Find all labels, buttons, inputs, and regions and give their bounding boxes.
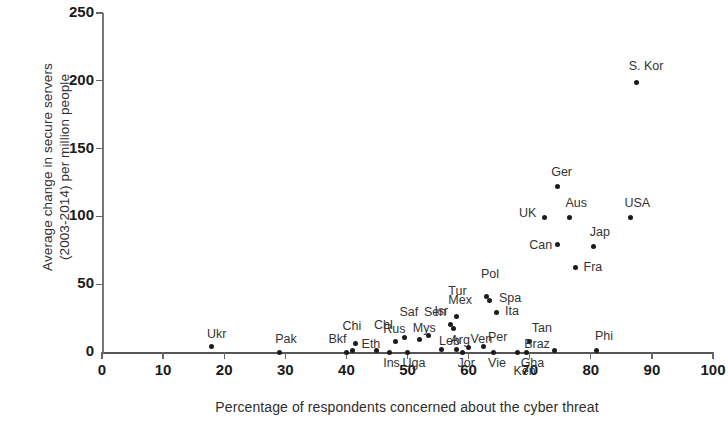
x-tick-label: 40: [324, 361, 368, 378]
data-point: [494, 310, 499, 315]
data-point-label: Vie: [488, 356, 506, 370]
data-point-label: Saf: [399, 305, 418, 319]
data-point: [628, 215, 633, 220]
data-point: [387, 350, 392, 355]
data-point: [451, 326, 456, 331]
x-tick-label: 0: [80, 361, 124, 378]
data-point-label: Pol: [481, 267, 499, 281]
data-point: [591, 244, 596, 249]
data-point-label: Braz: [524, 337, 550, 351]
data-point: [393, 339, 398, 344]
data-point: [426, 333, 431, 338]
data-point-label: Uga: [403, 356, 426, 370]
data-point-label: Jap: [590, 225, 610, 239]
data-point: [542, 215, 547, 220]
data-point-label: Ita: [505, 304, 519, 318]
data-point: [277, 350, 282, 355]
x-axis-label: Percentage of respondents concerned abou…: [102, 399, 712, 415]
data-point: [454, 347, 459, 352]
x-tick-label: 80: [569, 361, 613, 378]
y-axis-line: [102, 13, 104, 353]
data-point: [402, 335, 407, 340]
y-tick-label: 200: [48, 71, 94, 88]
data-point-label: Mys: [413, 321, 436, 335]
data-point: [460, 350, 465, 355]
y-tick-label: 100: [48, 206, 94, 223]
data-point-label: Phi: [595, 329, 613, 343]
x-tick-label: 30: [263, 361, 307, 378]
data-point-label: Tan: [532, 321, 552, 335]
y-tick-mark: [96, 148, 103, 149]
data-point-label: Can: [529, 238, 552, 252]
data-point: [466, 345, 471, 350]
data-point-label: Bkf: [328, 332, 346, 346]
data-point-label: Ger: [551, 165, 572, 179]
data-point: [552, 348, 557, 353]
y-tick-mark: [96, 284, 103, 285]
y-tick-mark: [96, 80, 103, 81]
data-point: [555, 242, 560, 247]
data-point-label: Tur: [448, 284, 466, 298]
y-tick-mark: [96, 216, 103, 217]
data-point-label: Ins: [383, 356, 400, 370]
x-tick-mark: [590, 352, 591, 359]
data-point-label: Fra: [584, 260, 603, 274]
x-tick-label: 20: [202, 361, 246, 378]
data-point-label: Per: [488, 330, 507, 344]
scatter-chart: Average change in secure servers (2003-2…: [0, 0, 728, 433]
y-tick-label: 250: [48, 3, 94, 20]
y-axis-label: Average change in secure servers (2003-2…: [39, 27, 73, 307]
data-point: [454, 314, 459, 319]
data-point-label: Ukr: [207, 327, 226, 341]
data-point: [515, 350, 520, 355]
y-tick-label: 0: [48, 342, 94, 359]
data-point: [555, 184, 560, 189]
data-point: [209, 344, 214, 349]
data-point: [487, 298, 492, 303]
data-point-label: Rus: [383, 322, 405, 336]
x-tick-mark: [224, 352, 225, 359]
data-point: [567, 215, 572, 220]
data-point-label: Jor: [457, 356, 474, 370]
data-point: [481, 344, 486, 349]
y-tick-mark: [96, 12, 103, 13]
x-tick-mark: [162, 352, 163, 359]
data-point: [491, 350, 496, 355]
data-point-label: Chi: [343, 319, 362, 333]
x-tick-mark: [712, 352, 713, 359]
y-tick-label: 50: [48, 274, 94, 291]
data-point: [417, 337, 422, 342]
data-point: [344, 350, 349, 355]
x-tick-label: 100: [691, 361, 728, 378]
data-point: [405, 350, 410, 355]
x-tick-mark: [285, 352, 286, 359]
data-point-label: S. Kor: [629, 59, 664, 73]
x-tick-label: 90: [630, 361, 674, 378]
data-point-label: Aus: [565, 196, 587, 210]
data-point-label: Pak: [275, 332, 297, 346]
data-point-label: Gha: [521, 356, 545, 370]
x-tick-label: 10: [141, 361, 185, 378]
data-point-label: Isr: [434, 304, 448, 318]
data-point: [573, 265, 578, 270]
x-tick-mark: [651, 352, 652, 359]
x-tick-mark: [101, 352, 102, 359]
data-point: [634, 80, 639, 85]
y-tick-label: 150: [48, 139, 94, 156]
data-point-label: UK: [519, 206, 536, 220]
data-point-label: USA: [625, 196, 651, 210]
data-point: [353, 341, 358, 346]
